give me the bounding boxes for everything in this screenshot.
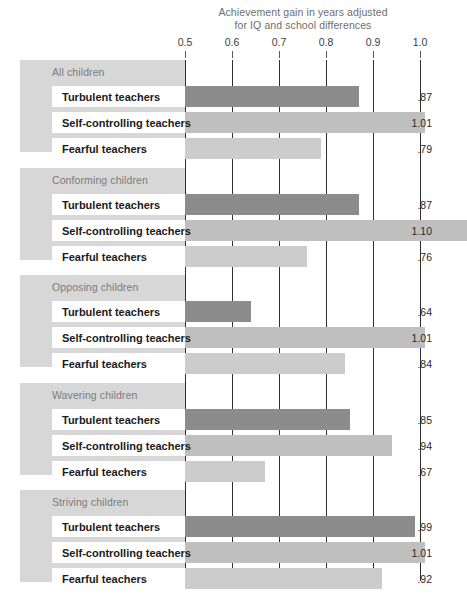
row-label: Fearful teachers	[52, 353, 185, 374]
chart-title: Achievement gain in years adjusted for I…	[178, 6, 428, 31]
row-label: Fearful teachers	[52, 246, 185, 267]
chart-row[interactable]: Fearful teachers.79	[20, 138, 432, 159]
chart-group: Striving childrenTurbulent teachers.99Se…	[20, 490, 432, 582]
chart-row[interactable]: Turbulent teachers.87	[20, 86, 432, 107]
group-rows: Turbulent teachers.85Self-controlling te…	[20, 409, 432, 482]
group-title: Conforming children	[52, 174, 148, 186]
bar-turbulent	[185, 194, 359, 215]
chart-title-line-1: Achievement gain in years adjusted	[218, 6, 387, 18]
group-rows: Turbulent teachers.64Self-controlling te…	[20, 301, 432, 374]
chart-row[interactable]: Turbulent teachers.87	[20, 194, 432, 215]
x-axis-tick-label: 0.9	[353, 36, 393, 48]
chart-row[interactable]: Self-controlling teachers1.01	[20, 327, 432, 348]
x-axis-tick-mark	[373, 51, 374, 58]
row-value: 1.01	[398, 112, 432, 133]
chart-row[interactable]: Turbulent teachers.85	[20, 409, 432, 430]
x-axis-tick-labels: 0.50.60.70.80.91.0	[0, 36, 452, 50]
row-label: Turbulent teachers	[52, 86, 185, 107]
row-label: Fearful teachers	[52, 461, 185, 482]
chart-row[interactable]: Fearful teachers.76	[20, 246, 432, 267]
x-axis-tick-mark	[232, 51, 233, 58]
bar-fearful	[185, 138, 321, 159]
row-value: .85	[398, 409, 432, 430]
row-label: Self-controlling teachers	[52, 435, 185, 456]
row-label: Self-controlling teachers	[52, 327, 185, 348]
row-label: Self-controlling teachers	[52, 542, 185, 563]
chart-row[interactable]: Turbulent teachers.99	[20, 516, 432, 537]
row-value: .94	[398, 435, 432, 456]
row-label: Self-controlling teachers	[52, 220, 185, 241]
x-axis-tick-label: 0.8	[306, 36, 346, 48]
x-axis-tick-label: 0.7	[259, 36, 299, 48]
row-label: Fearful teachers	[52, 138, 185, 159]
group-title: All children	[52, 66, 105, 78]
bar-fearful	[185, 461, 265, 482]
chart-group: Opposing childrenTurbulent teachers.64Se…	[20, 275, 432, 367]
chart-row[interactable]: Self-controlling teachers1.01	[20, 542, 432, 563]
x-axis-tick-label: 0.5	[165, 36, 205, 48]
chart-group: All childrenTurbulent teachers.87Self-co…	[20, 60, 432, 152]
row-value: .87	[398, 86, 432, 107]
row-label: Self-controlling teachers	[52, 112, 185, 133]
row-value: .67	[398, 461, 432, 482]
chart-groups: All childrenTurbulent teachers.87Self-co…	[0, 60, 452, 581]
bar-selfcontrolling	[185, 327, 425, 348]
x-axis-tick-mark	[420, 51, 421, 58]
row-label: Turbulent teachers	[52, 409, 185, 430]
chart-row[interactable]: Fearful teachers.84	[20, 353, 432, 374]
bar-turbulent	[185, 86, 359, 107]
bar-selfcontrolling	[185, 542, 425, 563]
row-label: Fearful teachers	[52, 568, 185, 589]
row-value: .84	[398, 353, 432, 374]
bar-selfcontrolling	[185, 112, 425, 133]
bar-fearful	[185, 353, 345, 374]
x-axis-tick-label: 1.0	[400, 36, 440, 48]
x-axis-tick-marks	[0, 51, 452, 59]
chart-group: Wavering childrenTurbulent teachers.85Se…	[20, 383, 432, 475]
row-value: .87	[398, 194, 432, 215]
chart-title-line-2: for IQ and school differences	[178, 19, 428, 32]
row-value: 1.10	[398, 220, 432, 241]
row-value: .99	[398, 516, 432, 537]
x-axis-tick-mark	[279, 51, 280, 58]
chart-row[interactable]: Fearful teachers.92	[20, 568, 432, 589]
row-value: 1.01	[398, 542, 432, 563]
chart-row[interactable]: Self-controlling teachers.94	[20, 435, 432, 456]
bar-turbulent	[185, 301, 251, 322]
row-value: .64	[398, 301, 432, 322]
group-rows: Turbulent teachers.87Self-controlling te…	[20, 86, 432, 159]
row-value: 1.01	[398, 327, 432, 348]
chart-row[interactable]: Turbulent teachers.64	[20, 301, 432, 322]
x-axis-tick-label: 0.6	[212, 36, 252, 48]
row-label: Turbulent teachers	[52, 301, 185, 322]
bar-fearful	[185, 246, 307, 267]
group-title: Striving children	[52, 496, 128, 508]
row-value: .76	[398, 246, 432, 267]
row-value: .79	[398, 138, 432, 159]
chart-row[interactable]: Self-controlling teachers1.10	[20, 220, 432, 241]
x-axis-tick-mark	[185, 51, 186, 58]
group-rows: Turbulent teachers.87Self-controlling te…	[20, 194, 432, 267]
row-label: Turbulent teachers	[52, 516, 185, 537]
group-rows: Turbulent teachers.99Self-controlling te…	[20, 516, 432, 589]
bar-selfcontrolling	[185, 435, 392, 456]
chart-group: Conforming childrenTurbulent teachers.87…	[20, 168, 432, 260]
row-value: .92	[398, 568, 432, 589]
bar-turbulent	[185, 516, 415, 537]
group-title: Opposing children	[52, 281, 138, 293]
bar-turbulent	[185, 409, 350, 430]
chart-row[interactable]: Self-controlling teachers1.01	[20, 112, 432, 133]
group-title: Wavering children	[52, 389, 137, 401]
x-axis-tick-mark	[326, 51, 327, 58]
chart-row[interactable]: Fearful teachers.67	[20, 461, 432, 482]
row-label: Turbulent teachers	[52, 194, 185, 215]
bar-fearful	[185, 568, 382, 589]
